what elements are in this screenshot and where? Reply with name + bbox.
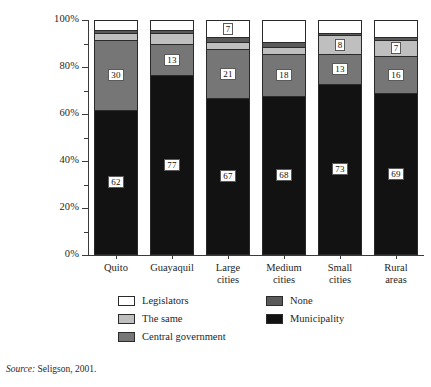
x-axis-label-medium-cities: Mediumcities xyxy=(252,262,316,285)
bar-value-label: 73 xyxy=(332,163,347,175)
chart-legend: LegislatorsThe sameCentral governmentNon… xyxy=(118,296,398,348)
bar-segment-the-same[interactable] xyxy=(151,33,193,45)
bar-value-label: 8 xyxy=(335,39,346,51)
bar-segment-municipality[interactable]: 68 xyxy=(263,96,305,254)
y-tick-label: 40% xyxy=(19,155,79,166)
bar-guayaquil[interactable]: 1377 xyxy=(150,20,194,255)
bar-value-label: 7 xyxy=(391,42,402,54)
legend-item-none[interactable]: None xyxy=(266,296,313,307)
bar-segment-municipality[interactable]: 77 xyxy=(151,75,193,254)
bar-value-label: 13 xyxy=(164,54,179,66)
chart-figure: 0%20%40%60%80%100% 306213777216718688137… xyxy=(0,0,431,300)
x-tick xyxy=(172,255,173,259)
bar-value-label: 68 xyxy=(276,169,291,181)
y-tick-label: 60% xyxy=(19,108,79,119)
legend-label: Municipality xyxy=(290,314,344,325)
bar-segment-municipality[interactable]: 67 xyxy=(207,98,249,254)
legend-item-legislators[interactable]: Legislators xyxy=(118,296,189,307)
legend-label: Legislators xyxy=(142,296,189,307)
x-axis-label-large-cities: Largecities xyxy=(196,262,260,285)
bar-large-cities[interactable]: 72167 xyxy=(206,20,250,255)
bar-value-label: 13 xyxy=(332,63,347,75)
bar-segment-the-same[interactable] xyxy=(95,33,137,40)
bar-value-label: 21 xyxy=(220,68,235,80)
legend-label: Central government xyxy=(142,332,226,343)
bar-segment-legislators[interactable] xyxy=(375,21,417,37)
bar-segment-central-government[interactable]: 18 xyxy=(263,54,305,96)
y-tick-label: 100% xyxy=(19,14,79,25)
source-label: Source: xyxy=(6,364,35,374)
x-tick xyxy=(396,255,397,259)
bar-segment-the-same[interactable] xyxy=(207,42,249,49)
y-tick-label: 80% xyxy=(19,61,79,72)
bar-quito[interactable]: 3062 xyxy=(94,20,138,255)
legend-item-the-same[interactable]: The same xyxy=(118,314,183,325)
legend-swatch-none xyxy=(266,296,283,306)
x-tick xyxy=(340,255,341,259)
bar-value-label: 16 xyxy=(388,69,403,81)
bar-group: 306213777216718688137371669 xyxy=(88,20,424,255)
legend-swatch-central-government xyxy=(118,332,135,342)
x-axis-line xyxy=(88,255,424,256)
legend-item-municipality[interactable]: Municipality xyxy=(266,314,344,325)
bar-value-label: 7 xyxy=(223,23,234,35)
y-tick-major xyxy=(82,255,88,256)
legend-label: None xyxy=(290,296,313,307)
source-note: Source: Seligson, 2001. xyxy=(6,364,96,374)
bar-segment-legislators[interactable] xyxy=(319,21,361,33)
bar-segment-the-same[interactable] xyxy=(263,47,305,54)
bar-value-label: 69 xyxy=(388,168,403,180)
bar-segment-legislators[interactable] xyxy=(95,21,137,30)
legend-label: The same xyxy=(142,314,183,325)
x-axis-label-guayaquil: Guayaquil xyxy=(140,262,204,274)
bar-segment-municipality[interactable]: 69 xyxy=(375,93,417,254)
x-axis-label-small-cities: Smallcities xyxy=(308,262,372,285)
bar-segment-central-government[interactable]: 30 xyxy=(95,40,137,110)
bar-segment-legislators[interactable] xyxy=(151,21,193,30)
legend-swatch-legislators xyxy=(118,296,135,306)
legend-swatch-the-same xyxy=(118,314,135,324)
x-axis-label-rural-areas: Ruralareas xyxy=(364,262,428,285)
bar-segment-the-same[interactable]: 8 xyxy=(319,35,361,54)
bar-rural-areas[interactable]: 71669 xyxy=(374,20,418,255)
bar-medium-cities[interactable]: 1868 xyxy=(262,20,306,255)
bar-segment-central-government[interactable]: 13 xyxy=(319,54,361,84)
bar-segment-municipality[interactable]: 73 xyxy=(319,84,361,254)
bar-segment-legislators[interactable]: 7 xyxy=(207,21,249,37)
x-tick xyxy=(228,255,229,259)
bar-segment-the-same[interactable]: 7 xyxy=(375,40,417,56)
x-axis-label-quito: Quito xyxy=(84,262,148,274)
bar-segment-central-government[interactable]: 21 xyxy=(207,49,249,98)
bar-segment-legislators[interactable] xyxy=(263,21,305,42)
bar-value-label: 77 xyxy=(164,159,179,171)
bar-value-label: 67 xyxy=(220,170,235,182)
x-tick xyxy=(116,255,117,259)
source-text: Seligson, 2001. xyxy=(35,364,96,374)
bar-segment-municipality[interactable]: 62 xyxy=(95,110,137,254)
x-tick xyxy=(284,255,285,259)
bar-value-label: 18 xyxy=(276,69,291,81)
legend-item-central-government[interactable]: Central government xyxy=(118,332,226,343)
bar-segment-central-government[interactable]: 16 xyxy=(375,56,417,93)
bar-value-label: 62 xyxy=(108,176,123,188)
bar-segment-central-government[interactable]: 13 xyxy=(151,44,193,74)
y-tick-label: 20% xyxy=(19,202,79,213)
legend-swatch-municipality xyxy=(266,314,283,324)
bar-small-cities[interactable]: 81373 xyxy=(318,20,362,255)
y-tick-label: 0% xyxy=(19,249,79,260)
bar-value-label: 30 xyxy=(108,69,123,81)
